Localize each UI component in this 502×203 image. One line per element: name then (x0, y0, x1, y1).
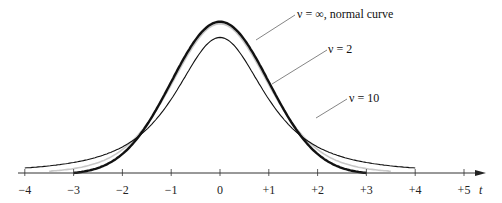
annotation-nu-2: ν = 2 (328, 42, 352, 56)
x-tick-label: +1 (262, 183, 275, 197)
x-tick-label: +5 (458, 183, 471, 197)
x-tick-label: −3 (67, 183, 80, 197)
x-tick-label: 0 (217, 183, 223, 197)
x-tick-label: −2 (116, 183, 129, 197)
leader-line-nu10 (316, 99, 347, 118)
annotation-normal-curve: ν = ∞, normal curve (297, 7, 393, 21)
x-tick-label: +3 (360, 183, 373, 197)
annotation-nu-10: ν = 10 (349, 91, 379, 105)
x-tick-label: −4 (18, 183, 31, 197)
x-tick-label: +4 (409, 183, 422, 197)
x-axis: −4−3−2−10+1+2+3+4+5 t (18, 169, 486, 197)
axis-arrow-icon (475, 170, 486, 176)
x-tick-label: −1 (165, 183, 178, 197)
leader-line-nu2 (272, 50, 327, 84)
axis-variable-label: t (479, 183, 483, 197)
annotations: ν = ∞, normal curve ν = 2 ν = 10 (256, 7, 393, 118)
x-tick-label: +2 (311, 183, 324, 197)
t-distribution-chart: −4−3−2−10+1+2+3+4+5 t ν = ∞, normal curv… (0, 0, 502, 203)
curve-series (74, 22, 367, 173)
leader-line-normal (256, 15, 295, 40)
